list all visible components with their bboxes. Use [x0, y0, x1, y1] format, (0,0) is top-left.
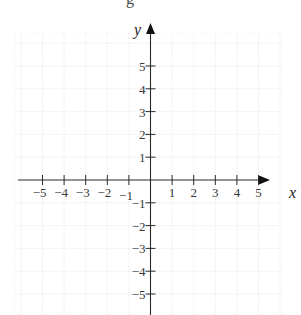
- y-axis-arrow-icon: [146, 23, 155, 34]
- y-tick-label: −5: [132, 287, 146, 302]
- grid: [15, 33, 282, 315]
- top-cutoff-text: g: [126, 0, 134, 8]
- y-tick-label: −1: [132, 196, 146, 211]
- x-tick-label: 2: [190, 185, 197, 200]
- x-tick-label: 3: [212, 185, 219, 200]
- coordinate-plane: g −5−4−3−2−112345 −5−4−3−2−112345 x y: [0, 0, 301, 315]
- x-tick-label: −2: [97, 185, 111, 200]
- y-tick-label: −2: [132, 219, 146, 234]
- y-tick-label: −4: [132, 264, 146, 279]
- y-tick-label: 4: [139, 82, 146, 97]
- x-tick-label: 4: [234, 185, 241, 200]
- x-ticks: −5−4−3−2−112345: [33, 175, 262, 203]
- y-axis-label: y: [132, 21, 142, 39]
- x-axis-arrow-icon: [259, 176, 270, 185]
- y-tick-label: −3: [132, 241, 146, 256]
- x-tick-label: 1: [169, 185, 176, 200]
- y-tick-label: 1: [139, 150, 146, 165]
- y-tick-label: 2: [139, 127, 146, 142]
- x-axis-label: x: [288, 184, 296, 201]
- y-tick-label: 5: [139, 59, 146, 74]
- x-tick-label: −4: [54, 185, 68, 200]
- x-tick-label: 5: [255, 185, 262, 200]
- x-tick-label: −3: [76, 185, 90, 200]
- x-tick-label: −5: [33, 185, 47, 200]
- y-tick-label: 3: [139, 105, 146, 120]
